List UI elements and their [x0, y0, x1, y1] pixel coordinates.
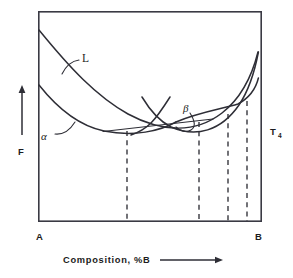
x-axis-arrow — [160, 257, 223, 263]
leader-line-alpha — [55, 122, 75, 134]
free-energy-composition-diagram: F L α β T 4 A B Composition, %B — [0, 0, 293, 278]
y-axis-arrow — [19, 85, 26, 135]
curve-beta-left-branch — [131, 97, 170, 135]
x-axis-right-endpoint-label: B — [255, 231, 262, 242]
temperature-label-subscript: 4 — [278, 132, 282, 139]
curve-liquid — [39, 30, 258, 128]
beta-phase-label: β — [182, 102, 189, 114]
x-axis-caption: Composition, %B — [63, 255, 150, 265]
x-axis-left-endpoint-label: A — [36, 231, 43, 242]
temperature-label-text: T — [270, 126, 276, 137]
curve-alpha — [39, 85, 176, 133]
y-axis-label: F — [18, 146, 24, 157]
liquid-curve-label: L — [82, 52, 89, 64]
alpha-phase-label: α — [41, 130, 47, 142]
temperature-label: T 4 — [270, 126, 282, 139]
